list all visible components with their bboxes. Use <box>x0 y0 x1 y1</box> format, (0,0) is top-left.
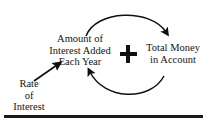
horizontal-rule <box>4 115 203 118</box>
plus-sign-icon <box>120 45 137 63</box>
node-amount-of-interest-added-each-year: Amount of Interest Added Each Year <box>38 33 122 68</box>
node-label-line-2: Interest Added <box>38 45 122 57</box>
node-label-line-2: of <box>4 90 54 102</box>
node-total-money-in-account: Total Money in Account <box>138 42 208 65</box>
node-label-line-2: in Account <box>138 54 208 66</box>
plus-vertical-bar <box>126 45 130 63</box>
node-label-line-3: Interest <box>4 101 54 113</box>
causal-loop-diagram: Amount of Interest Added Each Year Total… <box>0 0 210 124</box>
node-label-line-3: Each Year <box>38 56 122 68</box>
arc-money-to-interest <box>90 72 164 94</box>
node-label-line-1: Total Money <box>138 42 208 54</box>
node-label-line-1: Rate <box>4 78 54 90</box>
node-label-line-1: Amount of <box>38 33 122 45</box>
node-rate-of-interest: Rate of Interest <box>4 78 54 113</box>
